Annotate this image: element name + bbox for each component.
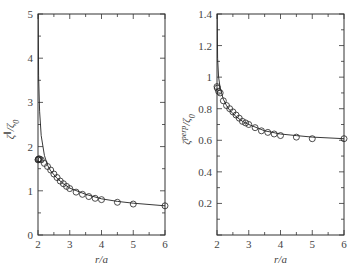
x-tick-label: 6 xyxy=(341,238,347,250)
chart-figure: 23456012345r/aζ∥/ζ0 234560.20.40.60.811.… xyxy=(0,0,357,271)
data-point-circle xyxy=(309,136,315,142)
y-tick-label: 0.2 xyxy=(198,197,212,209)
x-axis-label: r/a xyxy=(95,253,108,265)
data-point-circle xyxy=(54,175,60,181)
y-tick-label: 2 xyxy=(28,141,34,153)
y-tick-label: 0.4 xyxy=(198,166,212,178)
y-tick-label: 4 xyxy=(28,52,34,64)
data-point-circle xyxy=(130,201,136,207)
x-tick-label: 4 xyxy=(99,238,105,250)
y-tick-label: 3 xyxy=(28,96,34,108)
data-point-circle xyxy=(293,134,299,140)
data-point-circle xyxy=(114,199,120,205)
y-axis-label: ζperp/ζ0 xyxy=(179,114,197,145)
plot-frame xyxy=(38,14,165,235)
x-tick-label: 3 xyxy=(246,238,252,250)
x-tick-label: 2 xyxy=(35,238,41,250)
right-panel-perpendicular-friction: 234560.20.40.60.811.21.4r/aζperp/ζ0 xyxy=(179,8,348,265)
x-tick-label: 5 xyxy=(310,238,316,250)
data-point-circle xyxy=(278,133,284,139)
x-tick-label: 2 xyxy=(214,238,220,250)
x-axis-label: r/a xyxy=(274,253,287,265)
x-tick-label: 4 xyxy=(278,238,284,250)
theory-curve xyxy=(38,14,165,206)
y-tick-label: 5 xyxy=(28,8,34,20)
y-axis-label: ζ∥/ζ0 xyxy=(3,120,21,140)
theory-curve xyxy=(217,14,344,139)
y-tick-label: 0.6 xyxy=(198,134,212,146)
y-tick-label: 1.4 xyxy=(198,8,212,20)
data-point-circle xyxy=(73,189,79,195)
data-point-circle xyxy=(99,197,105,203)
data-point-circle xyxy=(86,194,92,200)
plot-frame xyxy=(217,14,344,235)
x-tick-label: 6 xyxy=(162,238,168,250)
y-tick-label: 1 xyxy=(207,71,213,83)
y-tick-label: 1.2 xyxy=(198,40,212,52)
y-tick-label: 0 xyxy=(28,229,34,241)
data-point-circle xyxy=(265,129,271,135)
y-tick-label: 1 xyxy=(28,185,34,197)
y-tick-label: 0.8 xyxy=(198,103,212,115)
left-panel-parallel-friction: 23456012345r/aζ∥/ζ0 xyxy=(3,8,169,265)
x-tick-label: 5 xyxy=(131,238,137,250)
data-point-circle xyxy=(92,195,98,201)
data-point-circle xyxy=(271,131,277,137)
x-tick-label: 3 xyxy=(67,238,73,250)
